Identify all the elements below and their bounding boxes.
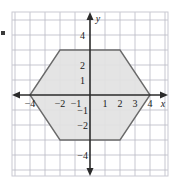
x-tick-label-neg4: −4 bbox=[25, 98, 36, 109]
coordinate-plane-figure: −4 −2 −1 1 2 3 4 4 2 1 −1 −2 −4 x y bbox=[0, 0, 176, 187]
y-tick-label-neg2: −2 bbox=[77, 120, 88, 131]
left-edge-tick-icon bbox=[1, 31, 5, 35]
coordinate-plane-svg: −4 −2 −1 1 2 3 4 4 2 1 −1 −2 −4 x y bbox=[0, 0, 176, 187]
y-tick-label-neg4: −4 bbox=[77, 150, 88, 161]
x-tick-label-neg2: −2 bbox=[55, 98, 66, 109]
y-tick-label-neg1: −1 bbox=[77, 105, 88, 116]
x-tick-label-2: 2 bbox=[118, 98, 123, 109]
x-tick-label-4: 4 bbox=[148, 98, 153, 109]
y-axis-label: y bbox=[95, 13, 101, 24]
x-axis-label: x bbox=[160, 98, 166, 109]
y-tick-label-1: 1 bbox=[80, 75, 85, 86]
y-tick-label-4: 4 bbox=[80, 30, 85, 41]
x-tick-label-1: 1 bbox=[103, 98, 108, 109]
x-tick-label-3: 3 bbox=[133, 98, 138, 109]
y-tick-label-2: 2 bbox=[80, 60, 85, 71]
